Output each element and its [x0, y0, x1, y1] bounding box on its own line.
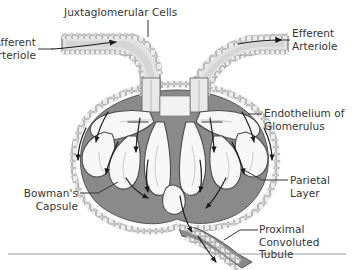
- label-efferent-arteriole: Efferent Arteriole: [292, 27, 338, 52]
- proximal-convoluted-tubule-vessel: [178, 226, 252, 269]
- leader-proximal-tubule: [224, 230, 258, 240]
- label-endothelium-of-glomerulus: Endothelium of Glomerulus: [264, 107, 345, 132]
- renal-corpuscle-figure: Juxtaglomerular Cells Afferent Arteriole…: [0, 0, 354, 270]
- label-afferent-arteriole: Afferent Arteriole: [0, 36, 36, 61]
- label-bowmans-capsule: Bowman's Capsule: [4, 187, 78, 212]
- label-juxtaglomerular-cells: Juxtaglomerular Cells: [64, 6, 177, 19]
- label-proximal-convoluted-tubule: Proximal Convoluted Tubule: [259, 223, 354, 261]
- label-parietal-layer: Parietal Layer: [290, 174, 354, 199]
